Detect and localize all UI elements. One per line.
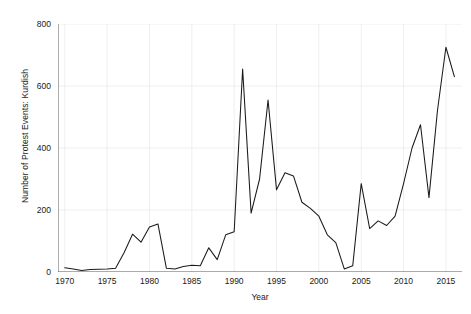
x-tick-label: 2005 bbox=[341, 277, 381, 286]
x-tick-label: 2000 bbox=[299, 277, 339, 286]
x-tick-label: 1985 bbox=[172, 277, 212, 286]
chart-figure: Number of Protest Events: Kurdish 020040… bbox=[0, 0, 471, 314]
x-axis-tick-labels: 1970197519801985199019952000200520102015 bbox=[0, 0, 471, 314]
x-tick-label: 1975 bbox=[87, 277, 127, 286]
x-tick-label: 1990 bbox=[214, 277, 254, 286]
x-tick-label: 1980 bbox=[129, 277, 169, 286]
x-tick-label: 1995 bbox=[257, 277, 297, 286]
x-tick-label: 2015 bbox=[426, 277, 466, 286]
x-tick-label: 1970 bbox=[45, 277, 85, 286]
x-tick-label: 2010 bbox=[384, 277, 424, 286]
x-axis-label: Year bbox=[58, 292, 462, 302]
